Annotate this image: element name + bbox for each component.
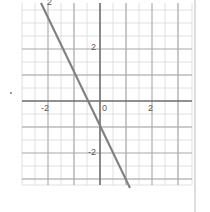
origin-label: 0 (102, 104, 107, 113)
x-axis-label-positive-two: 2 (148, 104, 153, 113)
y-axis-label-positive-two: 2 (91, 43, 96, 52)
graph-screenshot: 2 2 -2 0 2 -2 (0, 0, 210, 212)
y-axis-top-clipped-label: 2 (47, 0, 52, 7)
stray-speck-artifact (10, 92, 12, 94)
y-axis-label-negative-two: -2 (88, 148, 96, 157)
plotted-line (41, 3, 130, 188)
x-axis-label-negative-two: -2 (41, 104, 49, 113)
